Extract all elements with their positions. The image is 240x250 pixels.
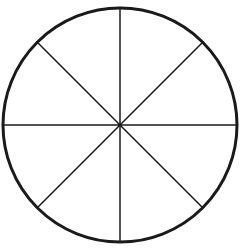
divided-circle-diagram <box>0 0 240 250</box>
center-point <box>119 124 122 127</box>
